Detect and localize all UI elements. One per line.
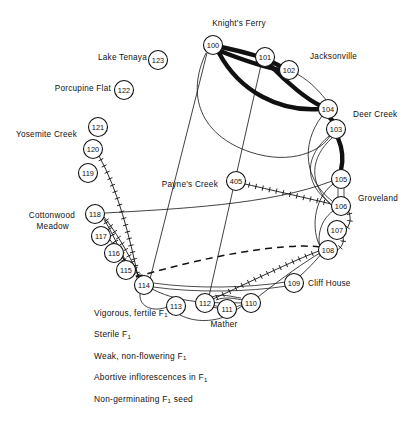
- node-label: 102: [283, 66, 295, 75]
- legend-label-main: Non-germinating F: [94, 394, 168, 404]
- legend-item-label: Weak, non-flowering F1: [94, 351, 186, 361]
- legend-item-weak-non-flowering: Weak, non-flowering F1: [26, 346, 326, 368]
- population-node-102[interactable]: 102: [280, 61, 299, 80]
- barb-tick: [128, 245, 133, 246]
- node-label: 117: [95, 232, 107, 241]
- legend-item-label: Vigorous, fertile F1: [94, 308, 168, 318]
- node-label: 116: [108, 249, 120, 258]
- population-node-122[interactable]: 122: [115, 81, 134, 100]
- population-node-118[interactable]: 118: [86, 205, 105, 224]
- legend-item-non-germinating-seed: Non-germinating F1 seed: [26, 389, 326, 411]
- barb-tick: [112, 230, 116, 233]
- barb-tick: [317, 198, 318, 203]
- population-node-103[interactable]: 103: [327, 120, 346, 139]
- legend-label-subscript: 1: [127, 334, 131, 340]
- place-label-paynes-creek: Payne's Creek: [162, 180, 218, 190]
- population-node-123[interactable]: 123: [149, 51, 168, 70]
- legend-label-main: Vigorous, fertile F: [94, 308, 164, 318]
- barb-tick: [289, 192, 290, 197]
- legend-label-main: Abortive inflorescences in F: [94, 372, 204, 382]
- node-label: 121: [92, 123, 104, 132]
- legend-line-sample: [26, 368, 81, 390]
- legend-label-tail: seed: [171, 394, 193, 404]
- legend-line-sample: [26, 325, 81, 347]
- population-node-115[interactable]: 115: [117, 261, 136, 280]
- place-label-knights-ferry: Knight's Ferry: [212, 19, 266, 29]
- place-label-jacksonville: Jacksonville: [310, 52, 357, 62]
- barb-tick: [276, 189, 277, 194]
- node-label: 114: [138, 281, 150, 290]
- legend-line-sample: [26, 389, 81, 411]
- legend-line-sample: [26, 303, 81, 325]
- population-node-106[interactable]: 106: [332, 197, 351, 216]
- node-label: 104: [322, 105, 334, 114]
- legend-item-label: Sterile F1: [94, 329, 131, 339]
- node-label: 115: [120, 266, 132, 275]
- node-label: 120: [87, 145, 99, 154]
- legend-item-abortive-inflorescences: Abortive inflorescences in F1: [26, 368, 326, 390]
- population-node-120[interactable]: 120: [84, 140, 103, 159]
- barb-tick: [269, 187, 270, 192]
- place-label-deer-creek: Deer Creek: [353, 110, 397, 120]
- node-label: 100: [207, 41, 219, 50]
- barb-tick: [130, 252, 135, 253]
- node-label: 405: [230, 177, 242, 186]
- place-label-porcupine-flat: Porcupine Flat: [55, 84, 111, 94]
- legend-item-vigorous-fertile: Vigorous, fertile F1: [26, 303, 326, 325]
- population-node-107[interactable]: 107: [328, 221, 347, 240]
- legend-label-subscript: 1: [204, 377, 208, 383]
- legend-item-sterile: Sterile F1: [26, 325, 326, 347]
- legend-label-subscript: 1: [183, 355, 187, 361]
- node-label: 103: [330, 125, 342, 134]
- barb-tick: [296, 193, 297, 198]
- population-node-117[interactable]: 117: [92, 227, 111, 246]
- node-layer: 1231221211201191181171161151141131121111…: [79, 36, 351, 319]
- population-node-121[interactable]: 121: [89, 118, 108, 137]
- legend-line-sample: [26, 346, 81, 368]
- barb-tick: [108, 224, 112, 227]
- legend-item-label: Abortive inflorescences in F1: [94, 372, 207, 382]
- place-label-cottonwood-meadow-line2: Meadow: [37, 222, 69, 232]
- population-node-114[interactable]: 114: [135, 276, 154, 295]
- population-node-100[interactable]: 100: [204, 36, 223, 55]
- barb-tick: [310, 196, 311, 201]
- population-node-116[interactable]: 116: [105, 244, 124, 263]
- node-label: 119: [82, 169, 94, 178]
- population-node-119[interactable]: 119: [79, 164, 98, 183]
- legend-item-label: Non-germinating F1 seed: [94, 394, 193, 404]
- place-label-cliff-house: Cliff House: [308, 279, 351, 289]
- barb-tick: [341, 241, 346, 242]
- population-node-109[interactable]: 109: [285, 274, 304, 293]
- barb-tick: [248, 182, 249, 187]
- node-label: 107: [331, 226, 343, 235]
- legend: Vigorous, fertile F1Sterile F1Weak, non-…: [26, 303, 326, 411]
- legend-label-subscript: 1: [168, 398, 172, 404]
- place-label-groveland: Groveland: [358, 194, 398, 204]
- barb-tick: [323, 200, 324, 205]
- place-label-lake-tenaya: Lake Tenaya: [98, 53, 147, 63]
- legend-label-subscript: 1: [164, 312, 168, 318]
- crossing-diagram-figure: 1231221211201191181171161151141131121111…: [0, 0, 413, 425]
- barb-tick: [132, 258, 137, 259]
- barb-tick: [303, 195, 304, 200]
- node-label: 109: [288, 279, 300, 288]
- legend-label-main: Weak, non-flowering F: [94, 351, 183, 361]
- node-label: 105: [335, 175, 347, 184]
- place-label-cottonwood-meadow-line1: Cottonwood: [29, 211, 75, 221]
- population-node-105[interactable]: 105: [332, 170, 351, 189]
- barb-tick: [262, 185, 263, 190]
- population-node-104[interactable]: 104: [319, 100, 338, 119]
- barb-tick: [255, 184, 256, 189]
- legend-label-main: Sterile F: [94, 329, 127, 339]
- population-node-108[interactable]: 108: [319, 241, 338, 260]
- node-label: 101: [259, 53, 271, 62]
- barb-tick: [347, 220, 352, 221]
- node-label: 108: [322, 246, 334, 255]
- node-label: 118: [89, 210, 101, 219]
- legend-swatch-dashed: [26, 389, 413, 425]
- edge-group-abortive: [153, 136, 344, 291]
- population-node-101[interactable]: 101: [256, 48, 275, 67]
- node-label: 123: [152, 56, 164, 65]
- population-node-405[interactable]: 405: [227, 172, 246, 191]
- node-label: 122: [118, 86, 130, 95]
